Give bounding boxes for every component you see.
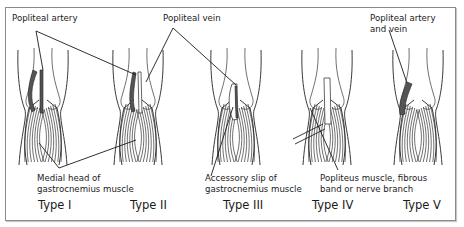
label-popliteal-artery-and-vein-l2: and vein	[370, 24, 407, 35]
popliteal-artery	[28, 70, 37, 112]
pointer-popliteal-artery-type1	[36, 31, 43, 70]
femur-condyle-medial	[310, 48, 322, 109]
type-label-4: Type IV	[312, 198, 353, 212]
type-label-3: Type III	[223, 198, 263, 212]
type-label-1: Type I	[38, 198, 71, 212]
label-popliteal-artery-and-vein-l1: Popliteal artery	[370, 13, 435, 24]
popliteal-vessels	[324, 78, 331, 124]
pointer-popliteal-vein-type3	[173, 28, 236, 85]
label-medial-head-l2: gastrocnemius muscle	[37, 184, 134, 195]
label-popliteal-vein: Popliteal vein	[163, 13, 221, 24]
label-popliteus-l2: band or nerve branch	[320, 184, 413, 195]
popliteal-artery-and-vein	[399, 82, 412, 115]
pointer-popliteal-artery-vein-type5	[389, 30, 407, 83]
pointer-popliteal-vein-type2	[146, 28, 173, 82]
popliteal-vein	[40, 70, 43, 113]
leg-diagram-type-2	[113, 48, 163, 165]
femur-condyle-lateral	[332, 48, 344, 109]
pointer-medial-head-type2	[59, 140, 136, 168]
femur-condyle-lateral	[241, 48, 253, 109]
label-medial-head-l1: Medial head of	[37, 173, 100, 184]
type-label-2: Type II	[130, 198, 167, 212]
leg-diagram-type-4	[293, 48, 352, 165]
popliteal-artery	[130, 72, 136, 112]
label-accessory-slip-l2: gastrocnemius muscle	[205, 184, 302, 195]
femur-condyle-lateral	[143, 48, 155, 109]
type-label-5: Type V	[403, 198, 441, 212]
leg-diagram-type-5	[393, 48, 443, 165]
femur-condyle-lateral	[48, 48, 60, 109]
leg-diagram-type-3	[211, 48, 261, 165]
femur-condyle-lateral	[423, 48, 435, 109]
label-popliteal-artery: Popliteal artery	[12, 13, 77, 24]
label-accessory-slip-l1: Accessory slip of	[205, 173, 277, 184]
label-popliteus-l1: Popliteus muscle, fibrous	[320, 173, 427, 184]
popliteal-vein	[138, 72, 142, 113]
pointer-popliteal-artery-type2	[36, 31, 136, 75]
